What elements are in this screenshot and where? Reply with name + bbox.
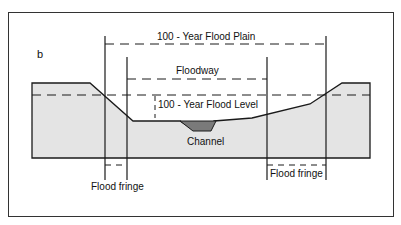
floodplain-diagram: b 100 - Year Flood Plain Floodway 100 - … <box>0 0 401 225</box>
flood-fringe-right-label: Flood fringe <box>270 168 323 179</box>
flood-level-label: 100 - Year Flood Level <box>158 99 258 110</box>
flood-fringe-left-label: Flood fringe <box>91 181 144 192</box>
flood-plain-label: 100 - Year Flood Plain <box>157 31 255 42</box>
floodway-label: Floodway <box>176 65 219 76</box>
channel-label: Channel <box>187 136 224 147</box>
panel-label: b <box>37 48 43 60</box>
